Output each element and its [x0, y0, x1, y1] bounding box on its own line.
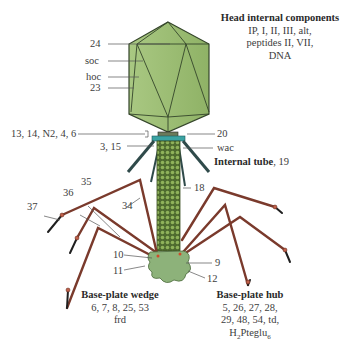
label-gp23: 23 — [90, 82, 101, 94]
whisker-right — [183, 141, 209, 172]
label-gp20: 20 — [217, 128, 228, 140]
head-internal-components: Head internal components IP, I, II, III,… — [205, 12, 344, 62]
figure-caption-cutoff — [10, 349, 190, 356]
base-plate-hub-title: Base-plate hub — [200, 289, 300, 302]
label-neck-proteins: 13, 14, N2, 4, 6 — [11, 128, 76, 140]
label-gp11: 11 — [113, 265, 123, 277]
head-internal-line-2: peptides II, VII, — [205, 37, 344, 50]
label-gp10: 10 — [113, 249, 124, 261]
tail-fiber-4 — [178, 217, 285, 258]
label-gp37: 37 — [27, 201, 38, 213]
label-gp36: 36 — [63, 187, 74, 199]
head-internal-line-3: DNA — [205, 50, 344, 63]
base-plate-hub-formula: H2Pteglu6 — [200, 327, 300, 344]
base-plate-wedge-line-1: 6, 7, 8, 25, 53 — [70, 302, 170, 315]
internal-tube-label: Internal tube, 19 — [214, 156, 289, 168]
capsid-head — [129, 22, 209, 132]
label-gp34: 34 — [122, 200, 133, 212]
base-plate-hub-line-1: 5, 26, 27, 28, — [200, 302, 300, 315]
head-internal-line-1: IP, I, II, III, alt, — [205, 25, 344, 38]
label-gp18: 18 — [194, 182, 205, 194]
label-gp3-15: 3, 15 — [100, 141, 121, 153]
label-gp35: 35 — [81, 176, 92, 188]
base-plate — [148, 251, 191, 283]
base-plate-wedge-line-2: frd — [70, 314, 170, 327]
label-gp9: 9 — [215, 257, 220, 269]
base-plate-hub: Base-plate hub 5, 26, 27, 28, 29, 48, 54… — [200, 289, 300, 343]
internal-tube-value: , 19 — [273, 156, 289, 167]
label-gp24: 24 — [90, 38, 101, 50]
collar — [152, 136, 185, 141]
head-internal-title: Head internal components — [205, 12, 344, 25]
tail-sheath — [157, 141, 180, 251]
base-plate-pin-left — [157, 255, 160, 258]
label-wac: wac — [217, 142, 234, 154]
internal-tube-title: Internal tube — [214, 156, 273, 167]
base-plate-hub-line-2: 29, 48, 54, td, — [200, 314, 300, 327]
label-soc: soc — [85, 55, 99, 67]
base-plate-pin-right — [179, 253, 182, 256]
label-gp12: 12 — [207, 273, 218, 285]
base-plate-wedge: Base-plate wedge 6, 7, 8, 25, 53 frd — [70, 289, 170, 327]
base-plate-wedge-title: Base-plate wedge — [70, 289, 170, 302]
